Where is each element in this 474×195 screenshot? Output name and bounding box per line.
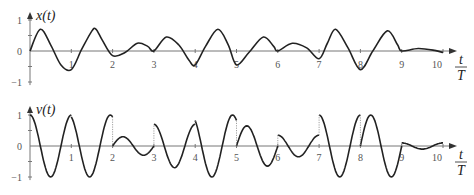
y-tick-label: −1 xyxy=(11,172,22,183)
x-axis-label-den: T xyxy=(457,163,466,178)
x-tick-label: 6 xyxy=(275,59,280,70)
y-axis-label: v(t) xyxy=(36,102,56,118)
y-tick-label: 0 xyxy=(17,141,22,152)
x-tick-label: 7 xyxy=(317,152,322,163)
x-axis-arrow-icon xyxy=(449,143,457,149)
y-axis-arrow-icon xyxy=(27,106,33,113)
y-axis-arrow-icon xyxy=(27,12,33,19)
x-tick-label: 9 xyxy=(399,59,404,70)
x-axis-label-num: t xyxy=(459,147,464,162)
x-tick-label: 7 xyxy=(317,59,322,70)
x-tick-label: 3 xyxy=(151,152,156,163)
x-tick-label: 10 xyxy=(432,152,442,163)
x-tick-label: 8 xyxy=(358,152,363,163)
x-tick-label: 2 xyxy=(110,152,115,163)
x-axis-label-den: T xyxy=(457,68,466,83)
x-tick-label: 4 xyxy=(193,152,198,163)
y-axis-label: x(t) xyxy=(35,8,56,24)
x-axis-arrow-icon xyxy=(449,48,457,54)
x-tick-label: 3 xyxy=(151,59,156,70)
y-tick-label: 0 xyxy=(17,46,22,57)
x-axis-label-num: t xyxy=(459,52,464,67)
y-tick-label: −1 xyxy=(11,77,22,88)
y-tick-label: 1 xyxy=(17,110,22,121)
figure: 10−112345678910x(t)tT 10−112345678910v(t… xyxy=(0,0,474,195)
v-plot: 10−112345678910v(t)tT xyxy=(11,102,467,183)
x-tick-label: 10 xyxy=(432,59,442,70)
y-tick-label: 1 xyxy=(17,15,22,26)
x-tick-label: 1 xyxy=(69,152,74,163)
x-tick-label: 5 xyxy=(234,152,239,163)
x-tick-label: 6 xyxy=(275,152,280,163)
x-tick-label: 2 xyxy=(110,59,115,70)
x-plot: 10−112345678910x(t)tT xyxy=(11,8,467,88)
